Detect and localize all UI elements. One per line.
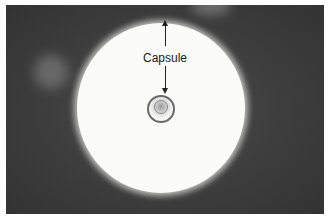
arrow-down-icon xyxy=(162,88,168,94)
background-debris xyxy=(191,5,231,15)
capsule-label: Capsule xyxy=(0,51,330,65)
arrow-line-up xyxy=(165,24,166,46)
cell-body xyxy=(147,95,175,123)
cell-nucleus xyxy=(154,100,168,114)
arrow-line-down xyxy=(165,66,166,89)
